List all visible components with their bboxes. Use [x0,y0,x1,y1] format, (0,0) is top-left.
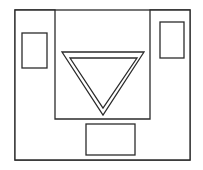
figure-svg [0,0,203,170]
bottom-center-rectangle [86,124,135,155]
left-arm-inner-rectangle [22,33,47,68]
right-arm-inner-rectangle [160,22,184,58]
drawing-canvas [0,0,203,170]
